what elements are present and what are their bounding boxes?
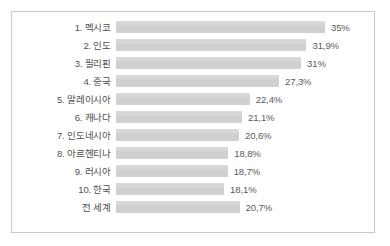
bar-fill [116,21,325,33]
bar-fill [116,57,301,69]
bar-category-label: 4. 중국 [12,76,116,87]
bar-category-label: 8. 아르헨티나 [12,148,116,159]
bar-track: 18,8% [116,144,374,162]
bar-fill [116,165,228,177]
bar-value-label: 21,1% [242,112,274,123]
bar-category-label: 6. 캐나다 [12,112,116,123]
bar-category-label: 7. 인도네시아 [12,130,116,141]
bar-track: 21,1% [116,108,374,126]
bar-value-label: 27,3% [279,76,311,87]
bar-fill [116,147,228,159]
bar-row: 5. 말레이시아22,4% [12,90,374,108]
bar-row: 전 세계20,7% [12,198,374,216]
bar-track: 22,4% [116,90,374,108]
bar-track: 27,3% [116,72,374,90]
bar-row: 6. 캐나다21,1% [12,108,374,126]
bar-value-label: 31% [301,58,326,69]
bar-category-label: 1. 멕시코 [12,22,116,33]
bar-value-label: 35% [325,22,350,33]
bar-row: 8. 아르헨티나18,8% [12,144,374,162]
bar-track: 18,7% [116,162,374,180]
bar-value-label: 18,8% [228,148,260,159]
chart-frame: 1. 멕시코35%2. 인도31,9%3. 필리핀31%4. 중국27,3%5.… [11,11,375,233]
bar-fill [116,39,306,51]
bar-category-label: 10. 한국 [12,184,116,195]
bar-category-label: 전 세계 [12,202,116,213]
bar-value-label: 20,7% [240,202,272,213]
bar-track: 20,6% [116,126,374,144]
bar-row: 10. 한국18,1% [12,180,374,198]
bar-value-label: 22,4% [250,94,282,105]
bar-category-label: 5. 말레이시아 [12,94,116,105]
bar-fill [116,93,250,105]
bar-category-label: 3. 필리핀 [12,58,116,69]
bar-fill [116,129,239,141]
bar-category-label: 2. 인도 [12,40,116,51]
bar-track: 31,9% [116,36,374,54]
bar-row: 4. 중국27,3% [12,72,374,90]
bar-fill [116,183,224,195]
bar-row: 3. 필리핀31% [12,54,374,72]
bar-row: 9. 러시아18,7% [12,162,374,180]
bar-row: 2. 인도31,9% [12,36,374,54]
bar-track: 31% [116,54,374,72]
bar-row: 1. 멕시코35% [12,18,374,36]
bar-fill [116,111,242,123]
bar-fill [116,201,240,213]
bar-value-label: 18,1% [224,184,256,195]
bar-category-label: 9. 러시아 [12,166,116,177]
bar-fill [116,75,279,87]
bar-track: 20,7% [116,198,374,216]
bar-track: 35% [116,18,374,36]
bar-value-label: 31,9% [306,40,338,51]
bar-value-label: 18,7% [228,166,260,177]
bar-chart-plot-area: 1. 멕시코35%2. 인도31,9%3. 필리핀31%4. 중국27,3%5.… [12,18,374,232]
bar-value-label: 20,6% [239,130,271,141]
bar-row: 7. 인도네시아20,6% [12,126,374,144]
bar-track: 18,1% [116,180,374,198]
